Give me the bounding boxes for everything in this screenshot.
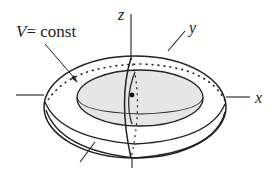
surface-label-var: V (16, 22, 26, 41)
y-axis-label: y (189, 20, 196, 36)
pointer-arrowhead (71, 75, 78, 83)
surface-label-rest: = const (26, 22, 76, 41)
z-axis-label: z (118, 7, 124, 23)
label-pointer (45, 44, 76, 80)
origin-dot (130, 93, 135, 98)
x-axis-label: x (255, 90, 262, 106)
inner-ellipsoid (77, 70, 203, 126)
y-axis-line (168, 31, 185, 51)
surface-label: V= const (16, 23, 76, 40)
